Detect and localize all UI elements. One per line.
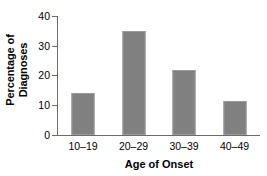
- bar-chart-figure: Percentage of Diagnoses 40 30 20 10 0 10…: [0, 0, 267, 176]
- y-tick-label-0: 0: [28, 130, 50, 141]
- y-axis-title-line1: Percentage of: [4, 34, 16, 105]
- plot-area: [58, 16, 260, 135]
- bar-slot-0: [58, 16, 109, 135]
- bar-30-39[interactable]: [173, 70, 196, 135]
- y-tick-label-30: 30: [28, 41, 50, 52]
- y-tick-label-40: 40: [28, 11, 50, 22]
- bar-slot-3: [210, 16, 261, 135]
- x-tick-label-3: 40–49: [210, 141, 260, 152]
- bar-40-49[interactable]: [223, 101, 246, 135]
- x-axis-title: Age of Onset: [58, 158, 260, 171]
- bar-slot-2: [159, 16, 210, 135]
- y-tick-label-10: 10: [28, 100, 50, 111]
- bar-slot-1: [109, 16, 160, 135]
- x-axis-line: [57, 135, 260, 136]
- bar-10-19[interactable]: [72, 93, 95, 135]
- x-tick-label-1: 20–29: [109, 141, 159, 152]
- bar-20-29[interactable]: [122, 31, 145, 135]
- x-tick-label-2: 30–39: [159, 141, 209, 152]
- y-tick-label-20: 20: [28, 70, 50, 81]
- x-tick-label-0: 10–19: [58, 141, 108, 152]
